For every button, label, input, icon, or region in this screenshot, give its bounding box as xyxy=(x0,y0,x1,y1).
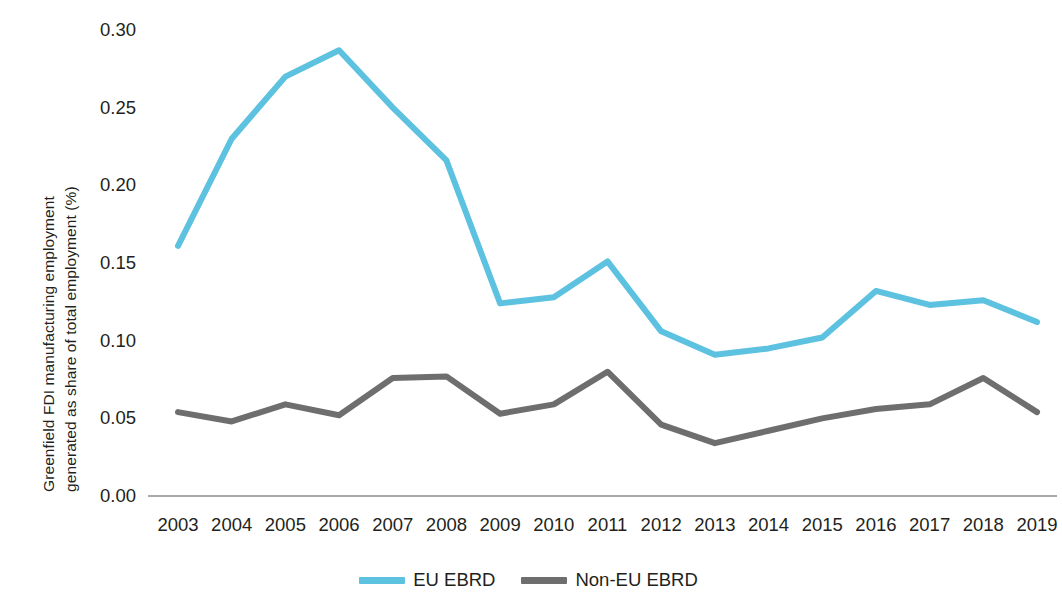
x-tick-label: 2015 xyxy=(792,516,852,535)
x-tick-label: 2017 xyxy=(900,516,960,535)
y-tick-label: 0.10 xyxy=(60,332,136,351)
x-tick-label: 2012 xyxy=(631,516,691,535)
x-tick-label: 2008 xyxy=(416,516,476,535)
chart-legend: EU EBRDNon-EU EBRD xyxy=(0,563,1057,597)
x-tick-label: 2007 xyxy=(363,516,423,535)
x-tick-label: 2009 xyxy=(470,516,530,535)
x-tick-label: 2016 xyxy=(846,516,906,535)
legend-item[interactable]: EU EBRD xyxy=(359,571,495,590)
y-axis-tick-labels: 0.000.050.100.150.200.250.30 xyxy=(52,0,136,520)
plot-area xyxy=(148,12,1057,504)
x-tick-label: 2005 xyxy=(255,516,315,535)
legend-swatch-icon xyxy=(521,577,567,584)
x-tick-label: 2019 xyxy=(1007,516,1062,535)
x-tick-label: 2018 xyxy=(953,516,1013,535)
x-tick-label: 2006 xyxy=(309,516,369,535)
legend-swatch-icon xyxy=(359,577,405,584)
y-tick-label: 0.15 xyxy=(60,254,136,273)
legend-label: EU EBRD xyxy=(413,571,495,590)
x-axis-tick-labels: 2003200420052006200720082009201020112012… xyxy=(148,516,1057,550)
plot-svg xyxy=(148,12,1057,504)
y-tick-label: 0.25 xyxy=(60,99,136,118)
x-tick-label: 2004 xyxy=(202,516,262,535)
series-line-non-eu-ebrd xyxy=(178,50,1037,354)
x-tick-label: 2011 xyxy=(578,516,638,535)
x-tick-label: 2014 xyxy=(739,516,799,535)
y-tick-label: 0.20 xyxy=(60,176,136,195)
legend-item[interactable]: Non-EU EBRD xyxy=(521,571,697,590)
y-tick-label: 0.00 xyxy=(60,487,136,506)
series-line-eu-ebrd xyxy=(178,372,1037,443)
x-tick-label: 2003 xyxy=(148,516,208,535)
x-tick-label: 2010 xyxy=(524,516,584,535)
x-tick-label: 2013 xyxy=(685,516,745,535)
y-tick-label: 0.05 xyxy=(60,409,136,428)
legend-label: Non-EU EBRD xyxy=(575,571,697,590)
y-tick-label: 0.30 xyxy=(60,21,136,40)
